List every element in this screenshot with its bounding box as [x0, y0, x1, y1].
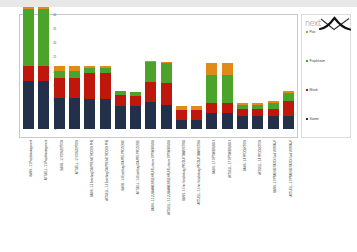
brand-logo: next	[305, 16, 351, 32]
bar-segment-stamm	[206, 113, 217, 129]
x-axis-tick-label: BASIS - 1.8 PRODUKTION	[244, 140, 247, 171]
bar-segment-projektteam	[206, 75, 217, 104]
bar-segment-projektteam	[222, 75, 233, 104]
bar-segment-mitarb	[84, 73, 95, 99]
stacked-bar[interactable]	[84, 66, 95, 129]
bar-segment-stamm	[130, 106, 141, 129]
bar-segment-stamm	[252, 116, 263, 129]
stacked-bar[interactable]	[268, 101, 279, 129]
x-axis-tick-label: AKTUELL - 1.2 KONZEPTION	[76, 140, 79, 174]
legend-swatch-icon	[306, 60, 308, 62]
x-axis-tick-label: AKTUELL - 1.3 Erstellung DIA PRE METHODE…	[106, 140, 109, 201]
bar-segment-mitarb	[54, 78, 65, 98]
x-axis-tick-label: AKTUELL - 1.9 PRAESENTATION und VERKAUF	[290, 140, 293, 197]
bar-segment-stamm	[145, 102, 156, 129]
x-axis-tick-label: AKTUELL - 1.5 ZUSAMMENFUEHRUNG, interne …	[168, 140, 171, 215]
bar-segment-stamm	[69, 98, 80, 129]
x-axis-tick-label: BASIS - 1.3 Erstellung DIA PRE METHODEN …	[91, 140, 94, 197]
bar-segment-stamm	[54, 98, 65, 129]
bar-segment-mitarb	[161, 83, 172, 104]
bar-segment-mitarb	[206, 103, 217, 113]
stacked-bar[interactable]	[100, 66, 111, 129]
bar-segment-mitarb	[115, 95, 126, 106]
bar-segment-mitarb	[222, 103, 233, 113]
stacked-bar[interactable]	[38, 7, 49, 129]
bar-segment-mitarb	[268, 109, 279, 116]
x-axis-tick-label: BASIS - 1.4 Erstellung DIA PRE-PROZESSE	[122, 140, 125, 191]
bar-segment-projektteam	[161, 63, 172, 83]
bar-segment-stamm	[283, 116, 294, 129]
x-axis-tick-label: AKTUELL - 1.6 Inc Verarbeitung PRODUKTMA…	[198, 140, 201, 204]
bar-segment-stamm	[191, 120, 202, 129]
bar-segment-mitarb	[38, 66, 49, 80]
legend-item-stamm[interactable]: Stamm	[306, 117, 319, 121]
bar-segment-projektteam	[23, 9, 34, 66]
stacked-bar[interactable]	[69, 66, 80, 129]
legend-label: Projektteam	[310, 59, 325, 63]
x-axis-tick-label: BASIS - 1.9 PRAESENTATION und VERKAUF	[274, 140, 277, 193]
bar-segment-mitarb	[237, 109, 248, 116]
stacked-bar[interactable]	[237, 103, 248, 129]
stacked-bar[interactable]	[206, 63, 217, 129]
window-top-band	[0, 0, 357, 7]
stacked-bar[interactable]	[191, 106, 202, 129]
x-axis-tick-label: BASIS - 1.5 ZUSAMMENFUEHRUNG, interne OP…	[152, 140, 155, 211]
legend-item-projektteam[interactable]: Projektteam	[306, 59, 325, 63]
bar-segment-stamm	[84, 99, 95, 129]
bar-segment-mitarb	[23, 66, 34, 80]
bar-segment-stamm	[268, 116, 279, 129]
bar-segment-mitarb	[69, 78, 80, 98]
x-axis-labels: BASIS - 1.1 ProjektmanagementAKTUELL - 1…	[21, 140, 296, 250]
bar-segment-plan	[206, 63, 217, 74]
bar-segment-projektteam	[283, 93, 294, 100]
bar-segment-mitarb	[176, 110, 187, 120]
bar-segment-plan	[222, 63, 233, 74]
x-axis-tick-label: AKTUELL - 1.8 PRODUKTION	[259, 140, 262, 175]
bar-segment-mitarb	[145, 82, 156, 102]
bar-segment-mitarb	[283, 101, 294, 117]
stacked-bar[interactable]	[252, 103, 263, 129]
bar-segment-stamm	[38, 81, 49, 129]
report-page: 0510152025303540 BASIS - 1.1 Projektmana…	[0, 7, 357, 252]
bar-segment-mitarb	[130, 96, 141, 106]
stacked-bar[interactable]	[115, 91, 126, 129]
legend-swatch-icon	[306, 89, 308, 91]
legend-item-mitarb[interactable]: Mitarb	[306, 88, 318, 92]
stacked-bar[interactable]	[23, 7, 34, 129]
legend-label: Stamm	[310, 117, 319, 121]
bar-series-group	[21, 15, 296, 129]
x-axis-tick-label: AKTUELL - 1.7 OPTIMIERUNG II	[229, 140, 232, 178]
legend-label: Mitarb	[310, 88, 318, 92]
bar-segment-mitarb	[100, 73, 111, 99]
bar-segment-stamm	[23, 81, 34, 129]
stacked-bar[interactable]	[283, 91, 294, 129]
x-axis-tick-label: BASIS - 1.7 OPTIMIERUNG II	[213, 140, 216, 174]
bar-segment-stamm	[176, 120, 187, 129]
bar-segment-stamm	[100, 99, 111, 129]
x-axis-tick-label: AKTUELL - 1.4 Erstellung DIA PRE-PROZESS…	[137, 140, 140, 194]
stacked-bar[interactable]	[176, 106, 187, 129]
stacked-bar[interactable]	[130, 92, 141, 129]
bar-segment-mitarb	[252, 109, 263, 116]
legend-swatch-icon	[306, 118, 308, 120]
stacked-bar[interactable]	[54, 66, 65, 129]
chart-legend: PlanProjektteamMitarbStamm	[301, 14, 351, 138]
bar-segment-projektteam	[69, 71, 80, 78]
swoosh-icon	[319, 16, 351, 31]
bar-segment-projektteam	[38, 9, 49, 66]
bar-segment-projektteam	[145, 62, 156, 82]
x-axis-tick-label: BASIS - 1.2 KONZEPTION	[61, 140, 64, 171]
bar-segment-stamm	[161, 105, 172, 129]
stacked-bar[interactable]	[145, 61, 156, 129]
bar-segment-projektteam	[54, 71, 65, 78]
x-axis-tick-label: BASIS - 1.6 Inc Verarbeitung PRODUKTMARK…	[183, 140, 186, 201]
x-axis-tick-label: BASIS - 1.1 Projektmanagement	[30, 140, 33, 177]
bar-segment-stamm	[222, 113, 233, 129]
bar-segment-stamm	[115, 106, 126, 129]
bar-segment-stamm	[237, 116, 248, 129]
x-axis-tick-label: AKTUELL - 1.1 Projektmanagement	[45, 140, 48, 180]
stacked-bar[interactable]	[222, 63, 233, 129]
stacked-bar[interactable]	[161, 62, 172, 129]
bar-segment-mitarb	[191, 110, 202, 120]
